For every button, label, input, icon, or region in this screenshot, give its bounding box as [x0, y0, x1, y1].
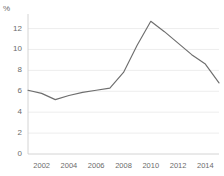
plot-area [0, 0, 224, 176]
x-tick-label-2008: 2008 [110, 162, 138, 170]
data-series-line [28, 21, 219, 99]
x-tick-label-2012: 2012 [164, 162, 192, 170]
line-chart: % 024681012 2002200420062008201020122014 [0, 0, 224, 176]
y-tick-label-12: 12 [0, 25, 22, 33]
x-tick-label-2004: 2004 [55, 162, 83, 170]
y-tick-label-2: 2 [0, 129, 22, 137]
y-tick-label-10: 10 [0, 45, 22, 53]
x-tick-label-2006: 2006 [82, 162, 110, 170]
x-tick-label-2002: 2002 [28, 162, 56, 170]
y-tick-label-4: 4 [0, 108, 22, 116]
y-tick-label-8: 8 [0, 66, 22, 74]
y-tick-label-0: 0 [0, 150, 22, 158]
x-tick-label-2014: 2014 [191, 162, 219, 170]
x-tick-label-2010: 2010 [137, 162, 165, 170]
y-tick-label-6: 6 [0, 87, 22, 95]
gridlines-group [28, 29, 219, 154]
